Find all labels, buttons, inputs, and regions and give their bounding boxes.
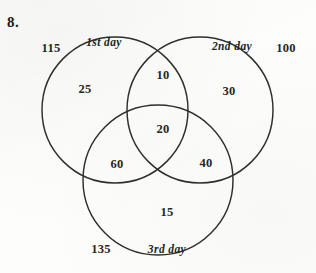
region-value-first-second: 10 [156,69,169,82]
outside-total-first-day: 115 [42,42,61,55]
region-value-first-third: 60 [110,158,123,171]
region-value-second-only: 30 [222,85,235,98]
set-label-first-day: 1st day [86,37,122,49]
region-value-all-three: 20 [156,123,169,136]
outside-total-second-day: 100 [276,42,296,55]
outside-total-third-day: 135 [91,243,111,256]
region-value-first-only: 25 [78,83,91,96]
figure-page: 8. 1st day 2nd day 3rd day 115 100 135 2… [0,0,316,273]
set-label-second-day: 2nd day [212,41,252,53]
set-label-third-day: 3rd day [148,244,186,256]
figure-number: 8. [7,15,19,30]
region-value-second-third: 40 [199,157,212,170]
region-value-third-only: 15 [160,206,173,219]
